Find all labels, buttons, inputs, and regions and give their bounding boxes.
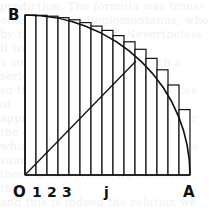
vertex-label-o: O: [13, 185, 26, 200]
inscribed-rectangle: [179, 110, 190, 175]
inscribed-rectangle: [91, 26, 102, 175]
inscribed-rectangle: [69, 20, 80, 175]
inscribed-rectangle: [102, 30, 113, 175]
tick-label-3: 3: [62, 185, 72, 199]
inscribed-rectangle: [124, 42, 135, 175]
tick-label-1: 1: [32, 185, 42, 199]
inscribed-rectangle: [25, 15, 36, 175]
inscribed-rectangle: [58, 18, 69, 175]
vertex-label-b: B: [8, 8, 19, 23]
vertex-label-a: A: [183, 185, 195, 200]
quarter-circle-diagram: [0, 0, 209, 208]
inscribed-rectangle: [80, 23, 91, 175]
inscribed-rectangle: [36, 15, 47, 175]
tick-label-j: j: [104, 185, 109, 199]
inscribed-rectangles: [25, 15, 190, 175]
inscribed-rectangle: [113, 36, 124, 175]
figure-container: prediction. The formula was trans- obtai…: [0, 0, 209, 208]
tick-label-2: 2: [47, 185, 57, 199]
inscribed-rectangle: [135, 49, 146, 175]
